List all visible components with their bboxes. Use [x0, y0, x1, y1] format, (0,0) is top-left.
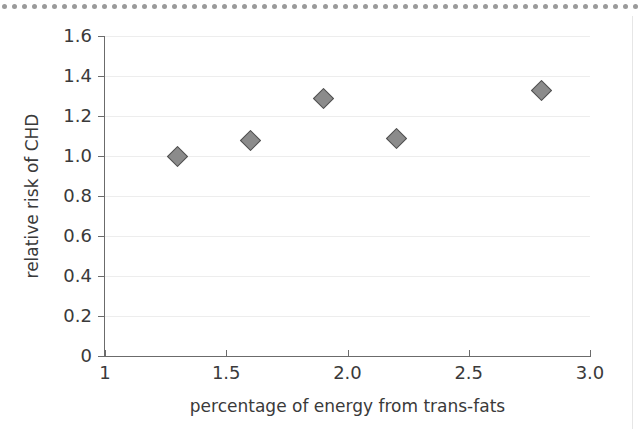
y-gridline	[105, 116, 590, 117]
x-axis-tick-mark	[105, 350, 106, 357]
decorative-dot	[513, 4, 518, 9]
y-gridline	[105, 236, 590, 237]
x-axis-tick-label: 1.5	[186, 364, 266, 382]
decorative-dot	[32, 4, 37, 9]
y-axis-tick-mark	[98, 36, 105, 37]
y-axis-tick-label: 0.2	[32, 307, 92, 325]
y-axis-tick-label: 1.6	[32, 27, 92, 45]
decorative-dot	[553, 4, 558, 9]
y-axis-tick-mark	[98, 316, 105, 317]
decorative-dot	[543, 4, 548, 9]
y-axis-tick-mark	[98, 196, 105, 197]
decorative-dot	[302, 4, 307, 9]
decorative-dot	[12, 4, 17, 9]
decorative-dot	[583, 4, 588, 9]
x-axis-tick-mark	[226, 350, 227, 357]
decorative-dot	[623, 4, 628, 9]
decorative-dot	[343, 4, 348, 9]
y-axis-tick-mark	[98, 76, 105, 77]
y-axis-tick-mark	[98, 276, 105, 277]
decorative-dot	[393, 4, 398, 9]
decorative-dot	[603, 4, 608, 9]
plot-area	[105, 36, 590, 356]
decorative-dot	[633, 4, 638, 9]
decorative-dot	[282, 4, 287, 9]
decorative-dot	[182, 4, 187, 9]
decorative-dot	[42, 4, 47, 9]
x-axis-tick-label: 2.5	[429, 364, 509, 382]
decorative-dot	[613, 4, 618, 9]
decorative-dot	[353, 4, 358, 9]
y-axis-tick-label: 1.4	[32, 67, 92, 85]
decorative-dot	[162, 4, 167, 9]
decorative-dot	[333, 4, 338, 9]
decorative-dot	[152, 4, 157, 9]
decorative-dot	[493, 4, 498, 9]
decorative-dot	[443, 4, 448, 9]
decorative-dot	[383, 4, 388, 9]
x-axis-tick-label: 1	[65, 364, 145, 382]
y-axis-title: relative risk of CHD	[22, 96, 42, 296]
decorative-dot	[142, 4, 147, 9]
y-gridline	[105, 76, 590, 77]
decorative-dot	[192, 4, 197, 9]
decorative-dot	[202, 4, 207, 9]
decorative-dot	[232, 4, 237, 9]
decorative-dot	[483, 4, 488, 9]
decorative-dot	[463, 4, 468, 9]
decorative-dot	[132, 4, 137, 9]
y-gridline	[105, 36, 590, 37]
decorative-dot	[563, 4, 568, 9]
decorative-dot	[242, 4, 247, 9]
chart-page: 00.20.40.60.81.01.21.41.6 11.52.02.53.0 …	[0, 0, 641, 429]
decorative-dot	[2, 4, 7, 9]
decorative-dot	[373, 4, 378, 9]
decorative-dot	[72, 4, 77, 9]
y-axis-tick-mark	[98, 116, 105, 117]
decorative-dot	[533, 4, 538, 9]
decorative-dot	[62, 4, 67, 9]
decorative-dot	[82, 4, 87, 9]
decorative-dot	[122, 4, 127, 9]
decorative-dot	[52, 4, 57, 9]
decorative-dot	[262, 4, 267, 9]
y-gridline	[105, 196, 590, 197]
decorative-dot	[212, 4, 217, 9]
decorative-dot	[102, 4, 107, 9]
decorative-dot	[593, 4, 598, 9]
decorative-dot	[503, 4, 508, 9]
decorative-dot	[22, 4, 27, 9]
decorative-dot	[323, 4, 328, 9]
y-axis-tick-label: 0	[32, 347, 92, 365]
x-axis-tick-label: 3.0	[550, 364, 630, 382]
decorative-dot	[423, 4, 428, 9]
y-gridline	[105, 276, 590, 277]
decorative-dot	[272, 4, 277, 9]
decorative-dot	[453, 4, 458, 9]
decorative-dot	[523, 4, 528, 9]
decorative-dot	[473, 4, 478, 9]
decorative-dot	[403, 4, 408, 9]
decorative-dot	[573, 4, 578, 9]
x-axis-title: percentage of energy from trans-fats	[105, 396, 590, 416]
decorative-dot	[222, 4, 227, 9]
y-axis-tick-mark	[98, 356, 105, 357]
decorative-dot	[92, 4, 97, 9]
decorative-dot	[433, 4, 438, 9]
decorative-dot	[112, 4, 117, 9]
decorative-dot	[363, 4, 368, 9]
x-axis-tick-mark	[469, 350, 470, 357]
decorative-dot	[413, 4, 418, 9]
decorative-dot	[252, 4, 257, 9]
top-dotted-rule	[0, 4, 641, 13]
decorative-dot	[172, 4, 177, 9]
y-axis-tick-mark	[98, 236, 105, 237]
x-axis-tick-label: 2.0	[308, 364, 388, 382]
scatter-chart-figure: 00.20.40.60.81.01.21.41.6 11.52.02.53.0 …	[0, 16, 641, 429]
x-axis-tick-mark	[590, 350, 591, 357]
decorative-dot	[292, 4, 297, 9]
y-axis-tick-mark	[98, 156, 105, 157]
decorative-dot	[312, 4, 317, 9]
x-axis-tick-mark	[348, 350, 349, 357]
y-gridline	[105, 316, 590, 317]
